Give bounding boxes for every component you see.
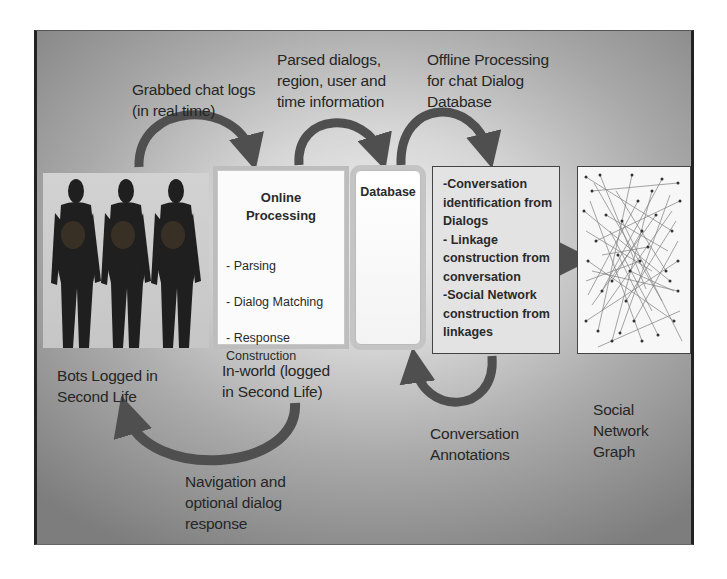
social-network-graph-image bbox=[577, 166, 691, 354]
database-title: Database bbox=[356, 183, 420, 201]
offline-item-social-network-construction: -Social Network construction from linkag… bbox=[443, 286, 559, 342]
label-offline-processing: Offline Processing for chat Dialog Datab… bbox=[427, 49, 549, 112]
online-processing-title: Online Processing bbox=[218, 189, 344, 225]
arrow-navigation bbox=[127, 403, 295, 460]
online-processing-box: Online Processing - Parsing - Dialog Mat… bbox=[217, 170, 345, 345]
label-grabbed-chat-logs: Grabbed chat logs (in real time) bbox=[132, 79, 255, 121]
arrow-parsed-dialogs bbox=[299, 123, 380, 165]
label-social-network-graph: Social Network Graph bbox=[593, 399, 648, 462]
offline-processing-box: -Conversation identification from Dialog… bbox=[432, 166, 560, 354]
arrow-grabbed-chat-logs bbox=[139, 115, 251, 167]
network-graph-icon bbox=[582, 171, 686, 349]
label-bots-logged-in: Bots Logged in Second Life bbox=[57, 365, 158, 407]
arrow-offline-processing bbox=[401, 112, 488, 165]
label-conversation-annotations: Conversation Annotations bbox=[430, 423, 519, 465]
bot-avatars-icon bbox=[43, 173, 209, 348]
offline-item-conversation-identification: -Conversation identification from Dialog… bbox=[443, 175, 559, 231]
bots-image bbox=[43, 173, 209, 348]
diagram-frame: Grabbed chat logs (in real time) Parsed … bbox=[34, 30, 694, 545]
label-in-world: In-world (logged in Second Life) bbox=[222, 360, 330, 402]
label-navigation: Navigation and optional dialog response bbox=[185, 471, 286, 534]
label-parsed-dialogs: Parsed dialogs, region, user and time in… bbox=[277, 49, 386, 112]
arrow-conversation-annotations bbox=[415, 356, 492, 402]
online-item-dialog-matching: - Dialog Matching bbox=[226, 293, 344, 311]
database-box: Database bbox=[355, 170, 421, 345]
offline-item-linkage-construction: - Linkage construction from conversation bbox=[443, 231, 559, 287]
online-item-parsing: - Parsing bbox=[226, 257, 344, 275]
